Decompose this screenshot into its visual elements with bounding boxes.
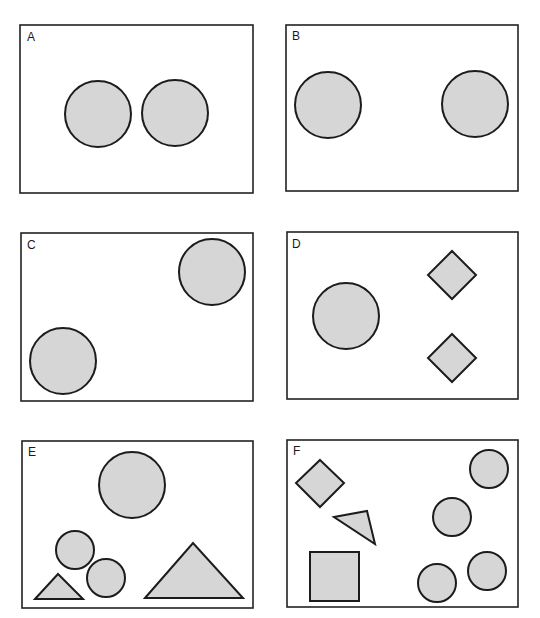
panel-f-label: F: [293, 444, 300, 458]
circle-shape: [56, 531, 94, 569]
circle-shape: [179, 239, 245, 305]
panel-a-frame: [20, 25, 253, 193]
circle-shape: [470, 450, 508, 488]
circle-shape: [433, 498, 471, 536]
panel-c-label: C: [27, 238, 36, 252]
circle-shape: [468, 552, 506, 590]
circle-shape: [30, 328, 96, 394]
panel-a-label: A: [27, 30, 35, 44]
panel-f: F: [287, 440, 518, 607]
circle-shape: [295, 72, 361, 138]
panel-d-label: D: [292, 237, 301, 251]
panel-e-label: E: [28, 445, 36, 459]
circle-shape: [418, 564, 456, 602]
circle-shape: [442, 71, 508, 137]
figure-canvas: A B C D E F: [0, 0, 540, 618]
circle-shape: [65, 81, 131, 147]
circle-shape: [313, 283, 379, 349]
circle-shape: [87, 559, 125, 597]
square-shape: [310, 552, 359, 601]
panel-b-label: B: [292, 29, 300, 43]
panel-a: A: [20, 25, 253, 193]
panel-d: D: [287, 232, 518, 399]
circle-shape: [142, 80, 208, 146]
panel-e: E: [22, 441, 253, 608]
circle-shape: [99, 452, 165, 518]
panel-c: C: [21, 233, 253, 401]
panel-b: B: [286, 25, 518, 191]
